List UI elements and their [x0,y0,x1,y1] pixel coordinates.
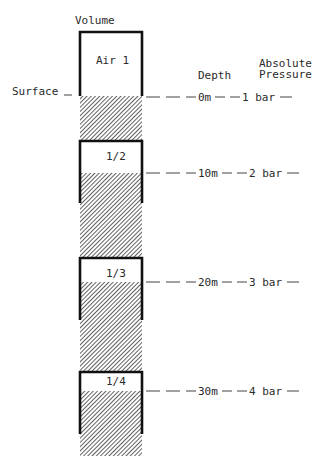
pressure-value: 4 bar [249,385,282,398]
pressure-value: 1 bar [242,91,275,104]
depth-value: 10m [198,167,218,180]
pressure-value: 3 bar [249,276,282,289]
volume-label: 1/3 [106,267,126,280]
depth-value: 20m [198,276,218,289]
volume-label: 1/4 [106,375,126,388]
volume-heading: Volume [75,14,115,27]
pressure-heading-line2: Pressure [259,68,312,81]
depth-value: 0m [198,91,212,104]
depth-value: 30m [198,385,218,398]
pressure-value: 2 bar [249,167,282,180]
depth-heading: Depth [198,69,231,82]
surface-label: Surface [12,85,58,98]
volume-label: 1/2 [106,150,126,163]
volume-label: Air 1 [96,54,129,67]
boyles-law-diagram: Volume Depth Absolute Pressure Surface A… [0,0,332,456]
